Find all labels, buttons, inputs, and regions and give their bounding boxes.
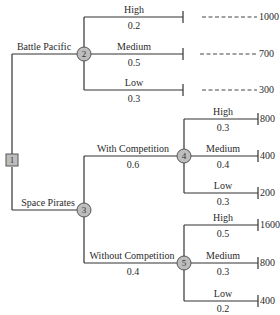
- payoff-value: 1600: [260, 219, 280, 230]
- outcome-label: Medium: [117, 41, 151, 52]
- alternative-space-pirates: Space Pirates: [21, 197, 75, 208]
- payoff-value: 400: [260, 295, 275, 306]
- alternative-battle-pacific: Battle Pacific: [17, 41, 71, 52]
- dashed-leaders: [200, 17, 257, 90]
- payoff-value: 800: [260, 257, 275, 268]
- outcome-prob: 0.3: [217, 196, 230, 207]
- branch-prob: 0.6: [127, 159, 140, 170]
- outcome-label: Low: [125, 77, 143, 88]
- outcome-prob: 0.2: [128, 20, 141, 31]
- outcome-label: Low: [214, 288, 232, 299]
- payoff-value: 300: [259, 84, 274, 95]
- outcome-prob: 0.2: [217, 303, 230, 314]
- outcome-label: High: [124, 4, 144, 15]
- chance-node-2-label: 2: [77, 49, 91, 59]
- outcome-prob: 0.5: [128, 57, 141, 68]
- branch-prob: 0.4: [127, 266, 140, 277]
- payoff-value: 1000: [259, 11, 279, 22]
- chance-node-5-label: 5: [177, 258, 191, 268]
- branch-label-without-competition: Without Competition: [90, 250, 175, 261]
- outcome-label: High: [213, 106, 233, 117]
- outcome-label: Medium: [206, 143, 240, 154]
- outcome-prob: 0.3: [128, 93, 141, 104]
- branch-label-with-competition: With Competition: [97, 143, 169, 154]
- decision-node-1-label: 1: [5, 155, 19, 165]
- outcome-prob: 0.3: [217, 266, 230, 277]
- outcome-label: Low: [214, 180, 232, 191]
- chance-node-4-label: 4: [177, 151, 191, 161]
- outcome-prob: 0.4: [217, 159, 230, 170]
- chance-node-3-label: 3: [77, 205, 91, 215]
- payoff-value: 400: [260, 150, 275, 161]
- payoff-value: 800: [260, 113, 275, 124]
- outcome-label: High: [213, 212, 233, 223]
- outcome-prob: 0.3: [217, 122, 230, 133]
- payoff-value: 200: [260, 187, 275, 198]
- outcome-label: Medium: [206, 250, 240, 261]
- outcome-prob: 0.5: [217, 228, 230, 239]
- payoff-value: 700: [259, 48, 274, 59]
